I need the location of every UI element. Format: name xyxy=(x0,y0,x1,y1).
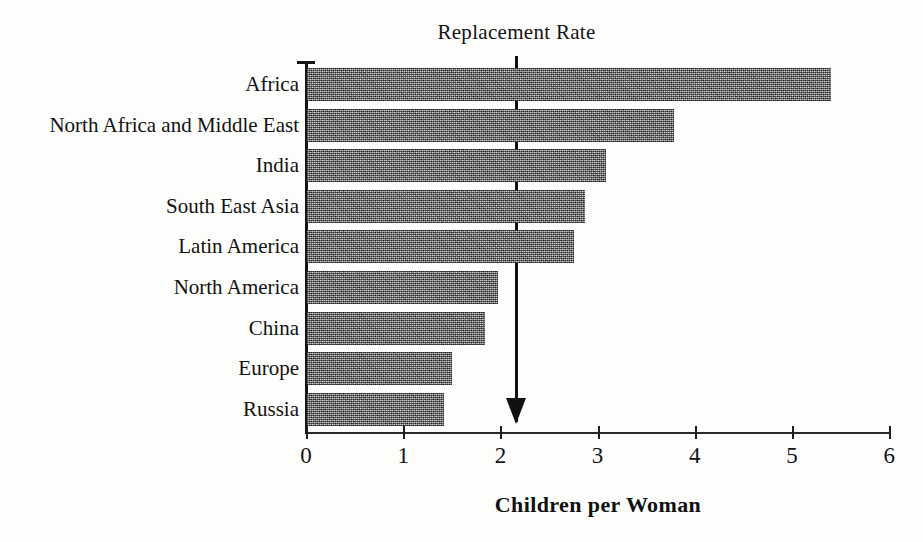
bar xyxy=(307,230,574,263)
x-axis-tick xyxy=(695,426,697,439)
x-axis-tick-label: 3 xyxy=(578,443,618,469)
x-axis-tick xyxy=(889,426,891,439)
x-axis-tick-label: 2 xyxy=(480,443,520,469)
category-label: North Africa and Middle East xyxy=(0,109,299,142)
category-label: Latin America xyxy=(0,230,299,263)
x-axis-tick-label: 1 xyxy=(383,443,423,469)
chart-figure: Replacement Rate 0123456 AfricaNorth Afr… xyxy=(0,0,923,542)
bar xyxy=(307,149,606,182)
bar xyxy=(307,68,831,101)
x-axis-tick xyxy=(403,426,405,439)
bar xyxy=(307,352,452,385)
bar xyxy=(307,190,585,223)
category-label: South East Asia xyxy=(0,190,299,223)
category-label: Russia xyxy=(0,393,299,426)
y-axis-top-tick xyxy=(297,61,315,64)
x-axis-tick xyxy=(500,426,502,439)
x-axis-tick xyxy=(598,426,600,439)
replacement-rate-label: Replacement Rate xyxy=(0,20,923,45)
x-axis-tick-label: 5 xyxy=(772,443,812,469)
x-axis-title: Children per Woman xyxy=(306,492,890,518)
x-axis-tick-label: 4 xyxy=(675,443,715,469)
x-axis-tick-label: 0 xyxy=(286,443,326,469)
bar xyxy=(307,393,444,426)
x-axis-tick xyxy=(306,426,308,439)
category-label: India xyxy=(0,149,299,182)
bar xyxy=(307,312,485,345)
x-axis-tick xyxy=(792,426,794,439)
x-axis-tick-label: 6 xyxy=(869,443,909,469)
bar xyxy=(307,109,674,142)
replacement-rate-text: Replacement Rate xyxy=(437,20,595,44)
category-label: Africa xyxy=(0,68,299,101)
category-label: North America xyxy=(0,271,299,304)
bar xyxy=(307,271,498,304)
replacement-rate-arrow-head xyxy=(506,398,526,424)
category-label: Europe xyxy=(0,352,299,385)
category-label: China xyxy=(0,312,299,345)
